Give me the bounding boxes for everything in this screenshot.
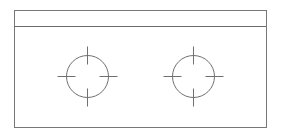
drawing-viewport — [0, 0, 282, 139]
engineering-drawing-canvas — [0, 0, 282, 139]
hole-left — [58, 47, 118, 107]
hole-right — [164, 47, 224, 107]
plate-outline-rectangle — [15, 11, 267, 128]
